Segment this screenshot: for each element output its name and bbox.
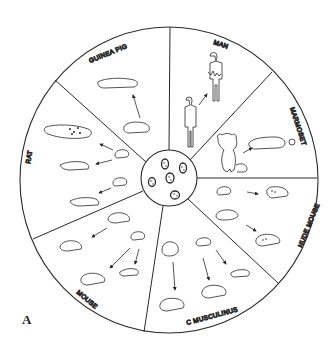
c-musculinus-figures — [160, 238, 249, 311]
sector-label-c-musculinus: C MUSCULINUS — [185, 305, 238, 326]
sector-label-marmoset: MARMOSET — [289, 106, 308, 146]
man-figures — [185, 53, 222, 148]
sector-label-mouse: MOUSE — [75, 288, 99, 310]
marmoset-figures — [217, 134, 295, 173]
sector-label-rat: RAT — [24, 150, 33, 164]
panel-label: A — [22, 312, 31, 328]
guinea-pig-figures — [98, 78, 150, 133]
mouse-figures — [60, 213, 145, 285]
sector-label-guinea-pig: GUINEA PIG — [88, 42, 128, 64]
center-tumor-cells — [141, 150, 197, 206]
species-wheel-diagram: MAN MARMOSET NUDE MOUSE C MUSCULINUS MOU… — [0, 0, 333, 351]
rat-figures — [44, 125, 128, 206]
nude-mouse-figures — [216, 187, 288, 246]
sector-label-nude-mouse: NUDE MOUSE — [296, 202, 320, 249]
sector-label-man: MAN — [213, 38, 230, 49]
